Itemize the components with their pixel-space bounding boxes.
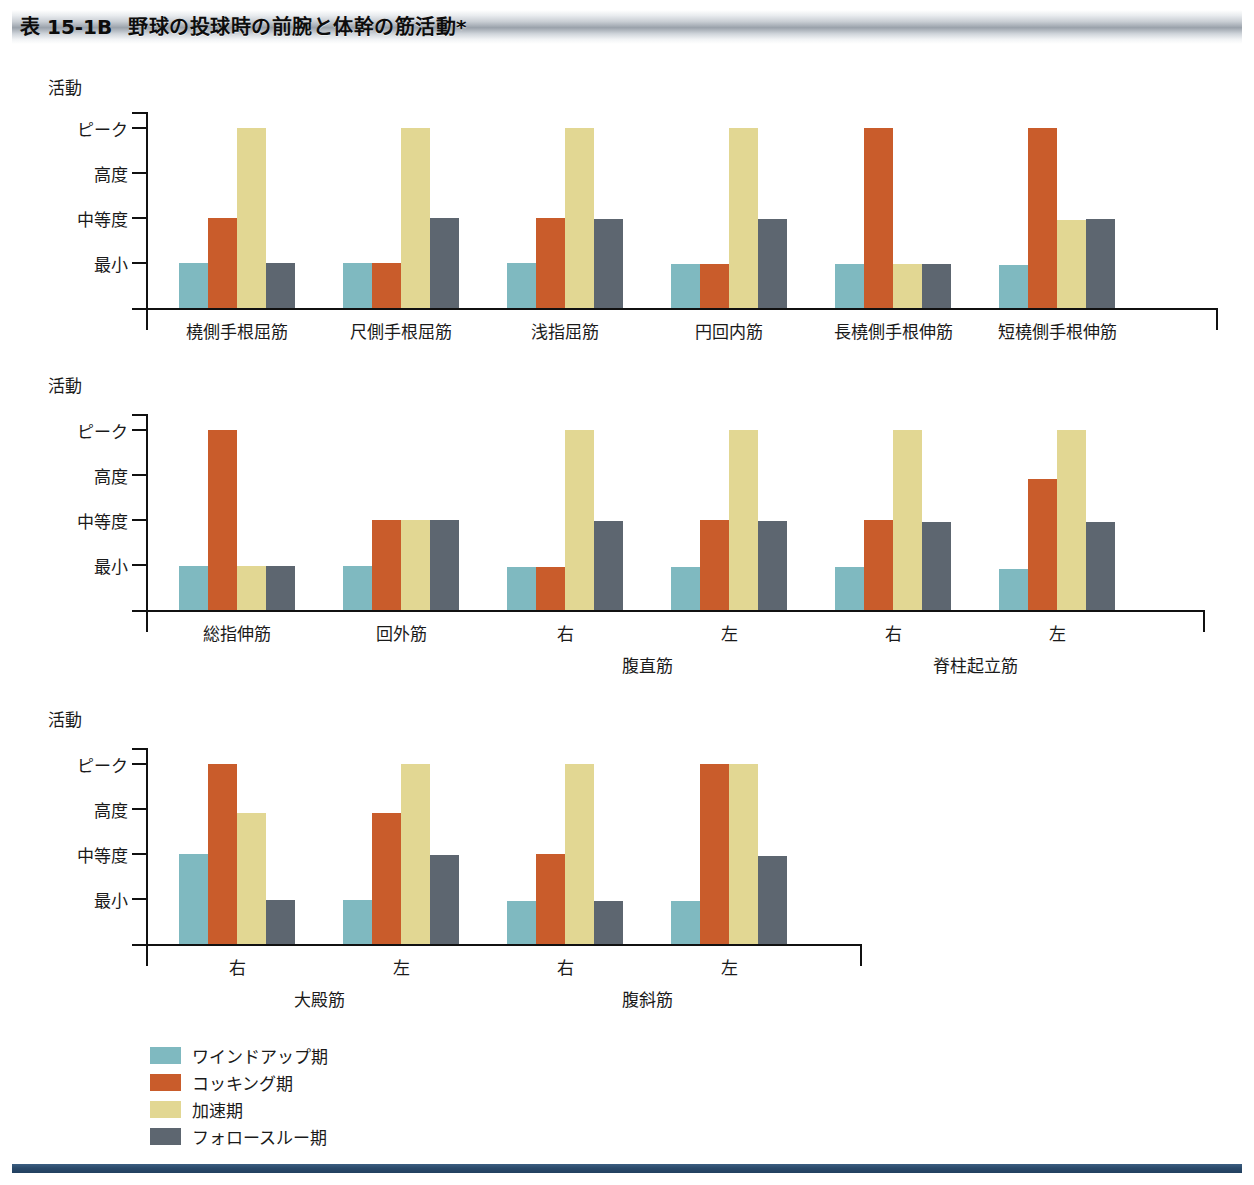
y-tick-label-3: 中等度 (40, 841, 128, 866)
legend-item: ワインドアップ期 (150, 1042, 328, 1069)
bar (729, 764, 758, 944)
bar (758, 856, 787, 944)
legend-label: フォロースルー期 (192, 1124, 327, 1149)
x-group-caption: 大殿筋 (294, 986, 345, 1011)
bar (343, 900, 372, 944)
y-tick-mark-3 (132, 853, 146, 855)
legend-swatch (150, 1074, 181, 1091)
x-category-label: 右 (557, 954, 574, 979)
x-category-label: 右 (229, 954, 246, 979)
y-tick-label-4: 最小 (40, 886, 128, 911)
x-axis-line (132, 944, 862, 946)
chart-legend: ワインドアップ期コッキング期加速期フォロースルー期 (150, 1042, 328, 1150)
page-title: 野球の投球時の前腕と体幹の筋活動* (128, 11, 467, 40)
legend-label: コッキング期 (192, 1070, 293, 1095)
bar (372, 813, 401, 944)
y-tick-label-1: ピーク (40, 751, 128, 776)
legend-item: フォロースルー期 (150, 1123, 328, 1150)
bar (507, 901, 536, 944)
y-axis-caption: 活動 (48, 706, 82, 731)
x-group-caption: 腹斜筋 (622, 986, 673, 1011)
bar (430, 855, 459, 944)
table-number: 表 15-1B (20, 11, 112, 40)
y-tick-mark-2 (132, 808, 146, 810)
bar (401, 764, 430, 944)
bar (208, 764, 237, 944)
x-category-label: 左 (721, 954, 738, 979)
y-axis-line (146, 748, 148, 966)
bar (237, 813, 266, 944)
legend-item: コッキング期 (150, 1069, 328, 1096)
footer-rule (12, 1164, 1242, 1173)
chart-3: 活動ピーク高度中等度最小右左右左大殿筋腹斜筋 (0, 0, 1254, 1185)
y-tick-mark-4 (132, 898, 146, 900)
legend-label: 加速期 (192, 1097, 243, 1122)
x-category-label: 左 (393, 954, 410, 979)
bar (671, 901, 700, 944)
legend-swatch (150, 1101, 181, 1118)
legend-item: 加速期 (150, 1096, 328, 1123)
legend-swatch (150, 1047, 181, 1064)
bar (594, 901, 623, 944)
y-tick-label-2: 高度 (40, 796, 128, 821)
legend-label: ワインドアップ期 (192, 1043, 328, 1068)
bar (700, 764, 729, 944)
bar (179, 854, 208, 944)
y-tick-mark-1 (132, 763, 146, 765)
bar (565, 764, 594, 944)
bar (266, 900, 295, 944)
bar (536, 854, 565, 944)
x-axis-right-cap (860, 944, 862, 966)
legend-swatch (150, 1128, 181, 1145)
y-axis-top-cap (132, 748, 146, 750)
